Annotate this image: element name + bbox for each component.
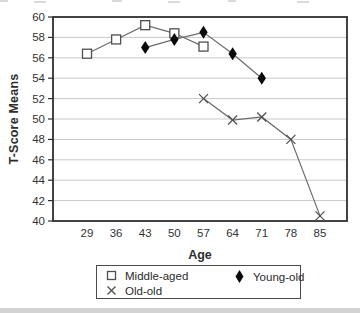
chart: 4042444648505254565860293643505764717885… xyxy=(0,0,360,313)
legend: Middle-aged Young-old Old-old xyxy=(96,265,301,299)
legend-label: Young-old xyxy=(253,271,304,283)
data-point-diamond xyxy=(141,41,149,54)
x-tick-label: 29 xyxy=(81,227,94,239)
legend-label: Old-old xyxy=(125,285,162,297)
y-tick-label: 40 xyxy=(32,215,45,227)
legend-item-old-old: Old-old xyxy=(105,284,162,297)
square-marker-icon xyxy=(105,269,118,282)
data-point-diamond xyxy=(258,72,266,85)
y-tick-label: 44 xyxy=(32,174,45,186)
y-tick-label: 58 xyxy=(32,31,45,43)
series-line-young-old xyxy=(145,32,262,78)
y-tick-label: 54 xyxy=(32,72,45,84)
y-tick-label: 42 xyxy=(32,195,45,207)
y-tick-label: 60 xyxy=(32,11,45,23)
y-tick-label: 48 xyxy=(32,133,45,145)
diamond-marker-icon xyxy=(233,269,246,284)
page-edge-artifact xyxy=(0,308,360,313)
legend-item-young-old: Young-old xyxy=(233,269,304,284)
x-marker-icon xyxy=(105,284,118,297)
y-tick-label: 50 xyxy=(32,113,45,125)
x-tick-label: 36 xyxy=(110,227,123,239)
x-tick-label: 57 xyxy=(197,227,210,239)
data-point-diamond xyxy=(199,26,207,39)
x-tick-label: 64 xyxy=(226,227,239,239)
legend-label: Middle-aged xyxy=(125,270,188,282)
x-tick-label: 85 xyxy=(314,227,327,239)
data-point-square xyxy=(199,42,208,51)
x-tick-label: 71 xyxy=(255,227,268,239)
x-tick-label: 43 xyxy=(139,227,152,239)
x-tick-label: 50 xyxy=(168,227,181,239)
data-point-square xyxy=(141,21,150,30)
x-tick-label: 78 xyxy=(284,227,297,239)
y-tick-label: 46 xyxy=(32,154,45,166)
y-tick-label: 52 xyxy=(32,93,45,105)
legend-item-middle-aged: Middle-aged xyxy=(105,269,188,282)
data-point-square xyxy=(112,35,121,44)
y-tick-label: 56 xyxy=(32,52,45,64)
y-axis-title: T-Score Means xyxy=(7,74,21,165)
x-axis-title: Age xyxy=(53,248,347,262)
data-point-square xyxy=(83,49,92,58)
